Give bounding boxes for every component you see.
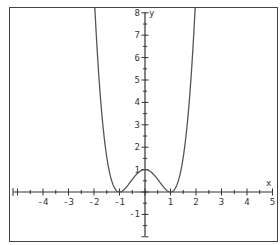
ticks [13, 13, 273, 237]
x-tick-label: 5 [270, 197, 275, 207]
y-tick-label: 8 [135, 8, 140, 18]
y-tick-label: 6 [135, 53, 140, 63]
x-tick-label: -2 [89, 197, 100, 207]
x-tick-label: -3 [63, 197, 74, 207]
y-tick-label: 3 [135, 120, 140, 130]
y-tick-label: -1 [129, 209, 140, 219]
x-axis-label: x [266, 178, 272, 188]
y-tick-label: 7 [135, 30, 140, 40]
x-tick-label: 4 [244, 197, 249, 207]
tick-labels: -4-3-2-112345-112345678 [38, 8, 276, 220]
y-tick-label: 2 [135, 142, 140, 152]
x-tick-label: 3 [219, 197, 224, 207]
y-tick-label: 4 [135, 97, 140, 107]
x-tick-label: -1 [114, 197, 125, 207]
function-plot: -4-3-2-112345-112345678 x y [0, 0, 280, 245]
y-axis-label: y [149, 8, 155, 18]
x-tick-label: 2 [193, 197, 198, 207]
x-tick-label: -4 [38, 197, 49, 207]
y-tick-label: 5 [135, 75, 140, 85]
x-tick-label: 1 [168, 197, 173, 207]
